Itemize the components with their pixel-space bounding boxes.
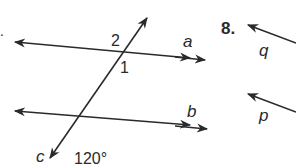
line-c-label: c: [36, 147, 45, 166]
transversal-c: [50, 18, 147, 158]
line-a: [15, 42, 205, 60]
line-p-label: p: [258, 106, 268, 125]
given-angle-label: 120°: [74, 150, 107, 167]
geometry-diagram: . a b c 2 1 120° 8. q p: [0, 0, 296, 168]
problem-7-marker: .: [0, 23, 4, 39]
line-p: [248, 94, 296, 112]
line-a-label: a: [183, 32, 192, 51]
line-q: [248, 25, 296, 43]
angle-2-label: 2: [111, 32, 120, 49]
angle-1-label: 1: [120, 59, 129, 76]
line-b: [15, 111, 207, 129]
problem-8-number: 8.: [221, 19, 235, 38]
line-q-label: q: [259, 41, 269, 60]
line-b-label: b: [187, 102, 196, 121]
